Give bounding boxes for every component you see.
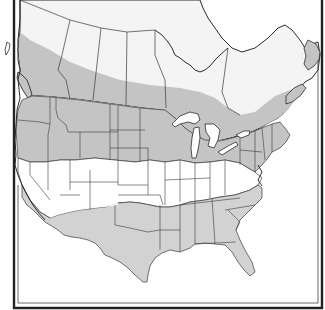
haida-gwaii — [5, 42, 10, 55]
range-map — [0, 0, 325, 310]
